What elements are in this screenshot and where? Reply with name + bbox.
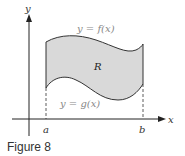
y-axis-label: y [24,3,31,14]
x-axis-label: x [168,114,174,125]
figure-caption: Figure 8 [7,140,51,154]
upper-curve-label: y = f(x) [76,23,115,34]
y-axis-arrow-icon [26,14,32,22]
left-bound-label: a [43,124,49,135]
region-between-curves-diagram: y x y = f(x) y = g(x) R a b [0,0,185,156]
x-axis-arrow-icon [158,116,166,122]
right-bound-label: b [139,124,145,135]
lower-curve-label: y = g(x) [59,98,100,109]
region-label: R [93,61,102,72]
